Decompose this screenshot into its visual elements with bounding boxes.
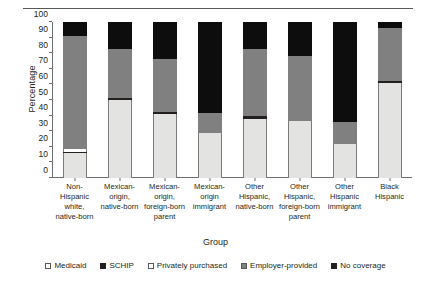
- x-axis-tick-mark: [344, 178, 345, 181]
- chart-legend: MedicaidSCHIPPrivately purchasedEmployer…: [0, 261, 431, 270]
- bar-slot: [232, 22, 277, 178]
- x-label-line: Mexican-: [98, 182, 141, 192]
- x-label-line: native-born: [53, 212, 96, 222]
- y-axis-tick-label: 20: [22, 134, 48, 143]
- header-rule: [23, 8, 413, 9]
- x-label-line: native-born: [98, 202, 141, 212]
- x-label-line: Mexican-: [143, 182, 186, 192]
- chart-figure: Percentage 0102030405060708090100 Non-Hi…: [0, 0, 431, 286]
- x-label-line: Other: [278, 182, 321, 192]
- bar-segment: [288, 22, 312, 56]
- stacked-bar[interactable]: [63, 22, 87, 178]
- bar-segment: [63, 153, 87, 178]
- bar-segment: [108, 100, 132, 178]
- stacked-bar[interactable]: [243, 22, 267, 178]
- stacked-bar[interactable]: [378, 22, 402, 178]
- bar-segment: [288, 56, 312, 122]
- x-axis-category-label: OtherHispanic,foreign-bornparent: [277, 182, 322, 222]
- x-label-line: origin: [188, 192, 231, 202]
- bar-segment: [153, 22, 177, 59]
- bar-segment: [243, 119, 267, 178]
- stacked-bar[interactable]: [198, 22, 222, 178]
- bar-segment: [288, 121, 312, 178]
- x-label-line: parent: [143, 212, 186, 222]
- x-axis-tick-mark: [389, 178, 390, 181]
- y-axis-tick-label: 10: [22, 150, 48, 159]
- y-axis-tick-label: 40: [22, 103, 48, 112]
- x-axis-tick-mark: [119, 178, 120, 181]
- legend-label: SCHIP: [109, 261, 133, 270]
- stacked-bar[interactable]: [333, 22, 357, 178]
- x-label-line: immigrant: [188, 202, 231, 212]
- bar-group-container: [52, 22, 412, 178]
- legend-item: Employer-provided: [241, 261, 317, 270]
- y-axis-tick-label: 100: [22, 9, 48, 18]
- x-axis-tick-mark: [74, 178, 75, 181]
- bar-slot: [142, 22, 187, 178]
- x-axis-category-labels: Non-Hispanicwhite,native-bornMexican-ori…: [52, 182, 412, 222]
- bar-segment: [198, 133, 222, 178]
- x-label-line: native-born: [233, 202, 276, 212]
- legend-swatch-icon: [241, 263, 247, 269]
- bar-segment: [243, 49, 267, 117]
- x-axis-category-label: Non-Hispanicwhite,native-born: [52, 182, 97, 222]
- bar-segment: [378, 28, 402, 80]
- x-label-line: white,: [53, 202, 96, 212]
- y-axis-tick-label: 80: [22, 40, 48, 49]
- x-label-line: parent: [278, 212, 321, 222]
- bar-segment: [198, 113, 222, 133]
- y-axis-tick-label: 0: [22, 165, 48, 174]
- bar-segment: [153, 114, 177, 178]
- x-axis-category-label: Mexican-origin,foreign-bornparent: [142, 182, 187, 222]
- bar-segment: [333, 144, 357, 178]
- legend-label: Employer-provided: [250, 261, 317, 270]
- x-label-line: foreign-born: [143, 202, 186, 212]
- bar-slot: [97, 22, 142, 178]
- x-axis-tick-mark: [209, 178, 210, 181]
- plot-area: 0102030405060708090100: [52, 22, 412, 178]
- bar-segment: [333, 22, 357, 122]
- bar-slot: [322, 22, 367, 178]
- x-axis-category-label: OtherHispanicimmigrant: [322, 182, 367, 222]
- bar-segment: [243, 22, 267, 49]
- bar-segment: [108, 22, 132, 49]
- legend-label: Medicaid: [54, 261, 86, 270]
- legend-swatch-icon: [331, 263, 337, 269]
- legend-item: SCHIP: [100, 261, 133, 270]
- legend-item: Medicaid: [45, 261, 86, 270]
- x-label-line: Hispanic: [368, 192, 411, 202]
- y-axis-tick-label: 50: [22, 87, 48, 96]
- x-label-line: foreign-born: [278, 202, 321, 212]
- x-label-line: Black: [368, 182, 411, 192]
- x-axis-title: Group: [0, 237, 431, 247]
- bar-segment: [333, 122, 357, 144]
- x-axis-category-label: BlackHispanic: [367, 182, 412, 222]
- y-axis-tick-label: 30: [22, 118, 48, 127]
- x-label-line: origin,: [143, 192, 186, 202]
- x-axis-tick-mark: [254, 178, 255, 181]
- bar-slot: [52, 22, 97, 178]
- stacked-bar[interactable]: [108, 22, 132, 178]
- x-axis-tick-mark: [299, 178, 300, 181]
- legend-swatch-icon: [45, 263, 51, 269]
- x-label-line: Non-Hispanic: [53, 182, 96, 202]
- legend-swatch-icon: [148, 263, 154, 269]
- x-axis-tick-mark: [164, 178, 165, 181]
- x-label-line: Other: [233, 182, 276, 192]
- legend-label: No coverage: [340, 261, 385, 270]
- y-axis-tick-label: 60: [22, 72, 48, 81]
- legend-item: Privately purchased: [148, 261, 227, 270]
- x-label-line: Other: [323, 182, 366, 192]
- bar-slot: [367, 22, 412, 178]
- x-label-line: Hispanic: [323, 192, 366, 202]
- y-axis-tick-label: 90: [22, 25, 48, 34]
- bar-segment: [63, 36, 87, 149]
- x-label-line: origin,: [98, 192, 141, 202]
- stacked-bar[interactable]: [288, 22, 312, 178]
- legend-swatch-icon: [100, 263, 106, 269]
- x-axis-category-label: OtherHispanic,native-born: [232, 182, 277, 222]
- stacked-bar[interactable]: [153, 22, 177, 178]
- bar-slot: [277, 22, 322, 178]
- bar-segment: [108, 49, 132, 97]
- legend-label: Privately purchased: [157, 261, 227, 270]
